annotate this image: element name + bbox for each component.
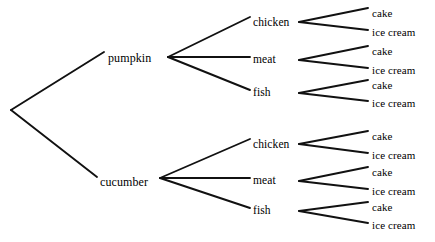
tree-diagram: pumpkincucumberchickenmeatfishchickenmea… [0, 0, 435, 242]
tree-edge [299, 60, 368, 68]
tree-edge [160, 178, 250, 208]
tree-node-ice-cream: ice cream [372, 98, 415, 109]
tree-node-ice-cream: ice cream [372, 186, 415, 197]
tree-node-cake: cake [372, 131, 393, 142]
tree-node-cake: cake [372, 202, 393, 213]
tree-edge [299, 93, 368, 101]
tree-edge [299, 8, 368, 22]
tree-edge [299, 167, 368, 181]
tree-node-ice-cream: ice cream [372, 65, 415, 76]
tree-edge [160, 139, 250, 178]
tree-node-ice-cream: ice cream [372, 150, 415, 161]
tree-node-fish: fish [253, 87, 271, 99]
tree-node-ice-cream: ice cream [372, 27, 415, 38]
tree-node-ice-cream: ice cream [372, 220, 415, 231]
tree-edge [11, 52, 104, 110]
tree-node-cake: cake [372, 167, 393, 178]
tree-node-pumpkin: pumpkin [108, 52, 151, 64]
tree-node-fish: fish [253, 205, 271, 217]
tree-node-cucumber: cucumber [100, 176, 148, 188]
tree-edge [299, 202, 368, 211]
tree-node-meat: meat [253, 54, 276, 66]
tree-edge [168, 17, 250, 57]
tree-node-meat: meat [253, 175, 276, 187]
tree-node-chicken: chicken [253, 139, 289, 151]
tree-node-cake: cake [372, 46, 393, 57]
tree-edge [11, 110, 97, 177]
tree-edge [168, 57, 250, 90]
tree-edge [299, 22, 368, 30]
tree-edge [299, 144, 368, 153]
tree-edge [299, 80, 368, 93]
tree-edge [299, 131, 368, 144]
tree-edge [299, 181, 368, 189]
tree-edge [299, 46, 368, 60]
tree-edges-layer [0, 0, 435, 242]
tree-node-chicken: chicken [253, 17, 289, 29]
tree-node-cake: cake [372, 80, 393, 91]
tree-node-cake: cake [372, 8, 393, 19]
tree-edge [299, 211, 368, 223]
